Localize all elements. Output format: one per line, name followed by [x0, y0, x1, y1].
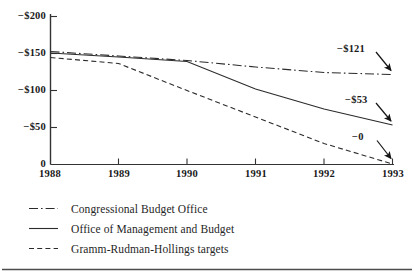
- legend-item-office-of-management-and-budget: Office of Management and Budget: [29, 220, 234, 238]
- y-tick-label-100: −$100: [0, 84, 46, 95]
- deficit-projection-figure: −$200 −$150 −$100 −$50 0 1988 1989 1990 …: [0, 0, 414, 276]
- series-line-gramm-rudman-hollings-targets: [51, 58, 393, 165]
- x-tick-label-1993: 1993: [369, 168, 414, 179]
- legend-key-dashed: [29, 243, 59, 255]
- x-axis-ticks: [119, 159, 393, 165]
- legend-item-congressional-budget-office: Congressional Budget Office: [29, 200, 208, 218]
- y-tick-label-200: −$200: [0, 10, 46, 21]
- legend-label-gramm-rudman-hollings-targets: Gramm-Rudman-Hollings targets: [71, 243, 229, 255]
- legend-key-dash-dot: [29, 203, 59, 215]
- y-axis-ticks: [51, 17, 58, 128]
- legend-label-congressional-budget-office: Congressional Budget Office: [71, 203, 208, 215]
- x-tick-label-1990: 1990: [163, 168, 211, 179]
- annotation-grh-value: −0: [352, 131, 364, 142]
- x-tick-label-1991: 1991: [232, 168, 280, 179]
- annotation-cbo-value: −$121: [337, 43, 365, 54]
- legend-label-office-of-management-and-budget: Office of Management and Budget: [71, 223, 234, 235]
- annotation-arrows: [376, 52, 391, 159]
- y-tick-label-150: −$150: [0, 47, 46, 58]
- arrow-to-grh-endpoint: [377, 141, 391, 159]
- y-tick-label-50: −$50: [0, 121, 46, 132]
- x-tick-label-1989: 1989: [95, 168, 143, 179]
- x-tick-label-1988: 1988: [26, 168, 74, 179]
- annotation-omb-value: −$53: [345, 94, 368, 105]
- legend-key-solid: [29, 223, 59, 235]
- x-tick-label-1992: 1992: [300, 168, 348, 179]
- arrow-to-cbo-endpoint: [376, 52, 391, 71]
- series-line-congressional-budget-office: [51, 52, 393, 75]
- arrow-to-omb-endpoint: [376, 103, 391, 121]
- legend-item-gramm-rudman-hollings-targets: Gramm-Rudman-Hollings targets: [29, 240, 229, 258]
